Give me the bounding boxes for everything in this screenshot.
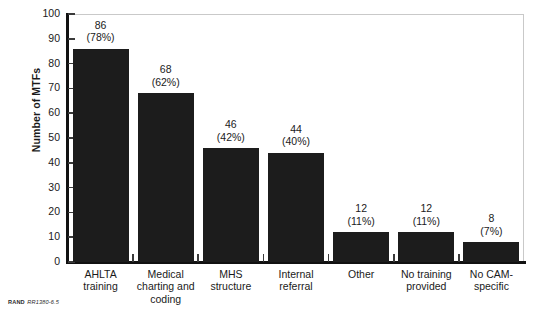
bar-count: 68 xyxy=(116,63,216,76)
x-category-label-line: Internal xyxy=(263,268,328,280)
bar-count: 44 xyxy=(246,123,346,136)
y-tick-label-50: 50 xyxy=(10,132,60,143)
bar-count: 8 xyxy=(441,212,539,225)
x-category-label-line: No training xyxy=(394,268,459,280)
bar-value-label: 86(78%) xyxy=(51,19,151,44)
bar-chart-figure: Number of MTFs 1009080706050403020100 86… xyxy=(0,0,539,318)
y-tick-label-40: 40 xyxy=(10,157,60,168)
bar-percent: (78%) xyxy=(51,31,151,44)
x-category-label-line: coding xyxy=(133,293,198,305)
x-tick-1 xyxy=(132,254,134,262)
x-category-label: MHSstructure xyxy=(198,268,263,293)
bar-value-label: 68(62%) xyxy=(116,63,216,88)
x-category-label: Internalreferral xyxy=(263,268,328,293)
y-tick-label-10: 10 xyxy=(10,231,60,242)
bar-count: 86 xyxy=(51,19,151,32)
x-category-label-line: MHS xyxy=(198,268,263,280)
x-category-label-line: Other xyxy=(329,268,394,280)
y-tick-label-0: 0 xyxy=(10,256,60,267)
x-category-label-line: AHLTA xyxy=(68,268,133,280)
x-tick-2 xyxy=(197,254,199,262)
x-category-label-line: Medical xyxy=(133,268,198,280)
x-category-label-line: charting and xyxy=(133,280,198,292)
bar xyxy=(463,242,519,262)
source-figure-id: RR1380-6.5 xyxy=(27,299,59,305)
x-category-label-line: structure xyxy=(198,280,263,292)
source-note: RANDRR1380-6.5 xyxy=(8,299,59,305)
x-category-label-line: provided xyxy=(394,280,459,292)
bar xyxy=(333,232,389,262)
x-tick-4 xyxy=(328,254,330,262)
y-tick-label-60: 60 xyxy=(10,107,60,118)
x-category-label-line: referral xyxy=(263,280,328,292)
x-tick-6 xyxy=(458,254,460,262)
x-category-label-line: specific xyxy=(459,280,524,292)
x-category-label: No CAM-specific xyxy=(459,268,524,293)
bar-value-label: 8(7%) xyxy=(441,212,539,237)
y-tick-label-20: 20 xyxy=(10,206,60,217)
y-tick-label-70: 70 xyxy=(10,82,60,93)
x-category-label: Other xyxy=(329,268,394,280)
y-tick-label-30: 30 xyxy=(10,182,60,193)
y-tick-label-80: 80 xyxy=(10,58,60,69)
x-category-label-line: No CAM- xyxy=(459,268,524,280)
y-tick-label-100: 100 xyxy=(10,8,60,19)
x-tick-3 xyxy=(263,254,265,262)
y-tick-100 xyxy=(68,13,75,15)
x-category-label: No trainingprovided xyxy=(394,268,459,293)
bar-percent: (62%) xyxy=(116,76,216,89)
x-category-label: AHLTAtraining xyxy=(68,268,133,293)
bar-percent: (40%) xyxy=(246,135,346,148)
source-organization: RAND xyxy=(8,299,25,305)
x-category-label: Medicalcharting andcoding xyxy=(133,268,198,305)
x-category-label-line: training xyxy=(68,280,133,292)
bar-percent: (7%) xyxy=(441,225,539,238)
bar-value-label: 44(40%) xyxy=(246,123,346,148)
x-tick-5 xyxy=(393,254,395,262)
bar xyxy=(203,148,259,262)
